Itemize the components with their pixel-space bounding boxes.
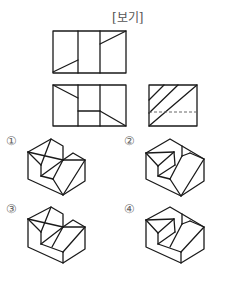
top-view xyxy=(53,31,126,73)
side-view xyxy=(149,85,197,126)
option-2-figure[interactable] xyxy=(146,139,204,196)
option-3-figure[interactable] xyxy=(28,207,85,263)
option-3-label[interactable]: ③ xyxy=(6,202,17,216)
front-view xyxy=(53,85,126,126)
option-2-label[interactable]: ② xyxy=(124,134,135,148)
drawing-canvas xyxy=(0,0,232,282)
option-4-label[interactable]: ④ xyxy=(124,202,135,216)
option-1-label[interactable]: ① xyxy=(6,134,17,148)
option-1-figure[interactable] xyxy=(28,139,85,195)
option-4-figure[interactable] xyxy=(146,207,204,263)
